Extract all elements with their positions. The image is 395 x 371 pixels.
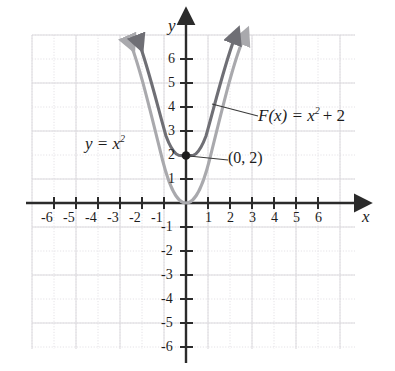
y-tick-label-4: 4 [168, 100, 175, 114]
x-tick-label-1: 1 [205, 211, 212, 225]
leader-line-fx [212, 104, 258, 116]
y-tick-label--4: -4 [161, 292, 173, 306]
x-tick-label-3: 3 [249, 211, 256, 225]
y-axis-name: y [168, 17, 176, 34]
x-tick-label--3: -3 [107, 211, 119, 225]
y-tick-label-5: 5 [168, 76, 175, 90]
y-tick-label-6: 6 [168, 52, 175, 66]
curve-label-shifted-exponent: 2 [315, 105, 320, 116]
x-tick-label-6: 6 [315, 211, 322, 225]
grid-lines-major [32, 35, 355, 349]
vertex-point-label: (0, 2) [228, 150, 263, 166]
y-tick-label--6: -6 [161, 340, 173, 354]
y-tick-label--2: -2 [161, 244, 173, 258]
y-tick-label--1: -1 [161, 220, 173, 234]
x-tick-label-4: 4 [271, 211, 278, 225]
y-tick-label-3: 3 [168, 124, 175, 138]
curve-label-F-of-x: F(x) = x2+ 2 [258, 106, 345, 124]
graph-figure: -6 -5 -4 -3 -2 -1 1 2 3 4 5 6 6 5 4 3 2 … [0, 0, 395, 371]
x-tick-label--6: -6 [41, 211, 53, 225]
y-tick-label-1: 1 [168, 172, 175, 186]
vertex-point-marker [182, 151, 191, 160]
curve-label-base-text: y = x [85, 134, 120, 153]
y-tick-label-2: 2 [168, 148, 175, 162]
curve-label-base-exponent: 2 [120, 133, 125, 144]
x-tick-label--5: -5 [63, 211, 75, 225]
y-tick-label--3: -3 [161, 268, 173, 282]
curve-label-y-equals-x-squared: y = x2 [85, 134, 125, 152]
y-tick-label--5: -5 [161, 316, 173, 330]
x-tick-label--4: -4 [85, 211, 97, 225]
x-tick-label--2: -2 [129, 211, 141, 225]
x-tick-label-2: 2 [227, 211, 234, 225]
coordinate-plane-svg [0, 0, 395, 371]
x-axis-name: x [362, 208, 370, 225]
grid-lines [32, 35, 355, 349]
curve-label-shifted-prefix: F(x) = x [258, 106, 315, 125]
curve-label-shifted-suffix: + 2 [323, 106, 345, 125]
x-tick-label-5: 5 [293, 211, 300, 225]
